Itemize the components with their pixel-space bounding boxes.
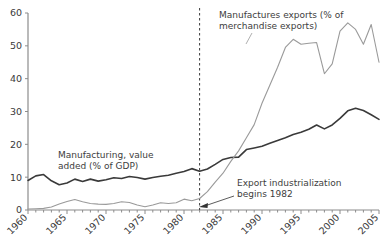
y-axis-tick-label: 50	[10, 40, 22, 51]
chart-container: 0102030405060196019651970197519801985199…	[0, 0, 388, 249]
manufactures-exports-label-line-0: Manufactures exports (% of	[219, 10, 344, 20]
x-axis-tick-label: 2005	[356, 212, 381, 237]
manufacturing-value-added-label: Manufacturing, valueadded (% of GDP)	[58, 150, 154, 171]
x-axis-tick-label: 1980	[161, 212, 186, 237]
y-axis-tick-label: 60	[10, 7, 22, 18]
manufacturing-value-added-label-line-1: added (% of GDP)	[58, 161, 138, 171]
x-axis-tick-label: 1965	[44, 212, 69, 237]
series-line-0	[28, 108, 379, 185]
y-axis-tick-label: 30	[10, 106, 22, 117]
manufacturing-value-added-label-line-0: Manufacturing, value	[58, 150, 154, 160]
export-industrialization-arrow-head	[199, 203, 208, 208]
export-industrialization-arrow-shaft	[206, 196, 234, 206]
y-axis-tick-label: 10	[10, 172, 22, 183]
export-industrialization-label-line-0: Export industrialization	[237, 178, 341, 188]
manufactures-exports-label-line-1: merchandise exports)	[219, 21, 317, 31]
manufactures-exports-leader	[246, 33, 252, 44]
x-axis-tick-label: 1995	[278, 212, 303, 237]
x-axis-tick-label: 1970	[83, 212, 108, 237]
export-industrialization-label-line-1: begins 1982	[237, 189, 293, 199]
x-axis-tick-label: 1975	[122, 212, 147, 237]
export-industrialization-label: Export industrializationbegins 1982	[237, 178, 341, 199]
y-axis-tick-label: 40	[10, 73, 22, 84]
x-axis-tick-label: 1960	[5, 212, 30, 237]
x-axis-tick-label: 2000	[317, 212, 342, 237]
x-axis-tick-label: 1985	[200, 212, 225, 237]
x-axis-tick-label: 1990	[239, 212, 264, 237]
y-axis-tick-label: 20	[10, 139, 22, 150]
manufactures-exports-label: Manufactures exports (% ofmerchandise ex…	[219, 10, 344, 31]
line-chart: 0102030405060196019651970197519801985199…	[0, 0, 388, 249]
